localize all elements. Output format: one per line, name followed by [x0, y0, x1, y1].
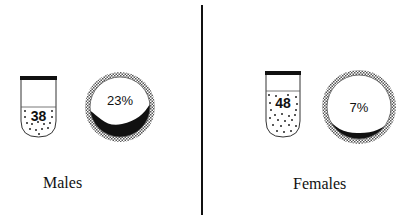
males-label: Males	[43, 174, 82, 192]
males-tube-value: 38	[31, 108, 47, 124]
females-percentage-value: 7%	[350, 100, 369, 115]
males-percentage-value: 23%	[107, 93, 133, 108]
males-test-tube-icon	[20, 76, 57, 137]
females-tube-value: 48	[275, 95, 291, 111]
males-percentage-circle-icon	[85, 72, 155, 145]
females-label: Females	[293, 175, 346, 193]
